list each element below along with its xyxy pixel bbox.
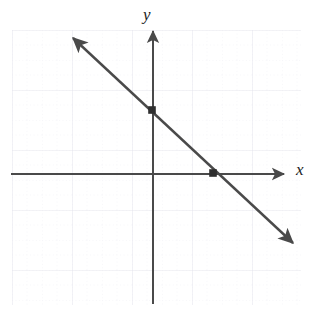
point-x-intercept — [209, 169, 217, 177]
point-y-intercept — [148, 106, 156, 114]
coordinate-plane — [0, 0, 321, 313]
y-axis-label: y — [143, 6, 151, 23]
graph-figure: y x — [0, 0, 321, 313]
grid-layer — [12, 30, 301, 305]
x-axis-label: x — [296, 161, 304, 178]
